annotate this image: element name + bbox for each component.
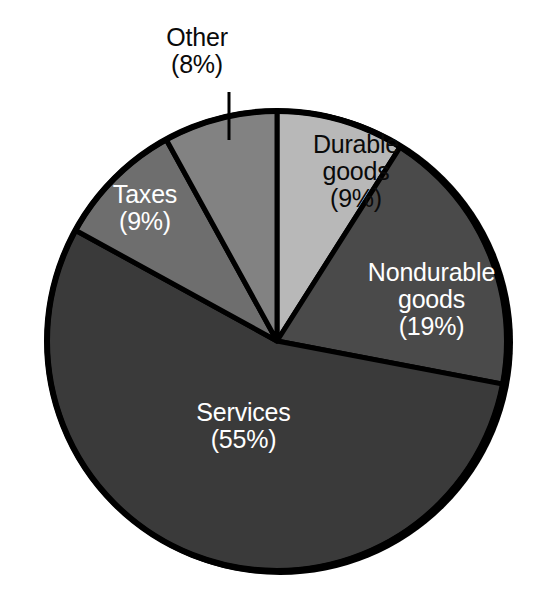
pie-chart: Other (8%) Durable goods (9%) Nondurable…	[0, 0, 546, 601]
pie-chart-canvas	[0, 0, 546, 601]
